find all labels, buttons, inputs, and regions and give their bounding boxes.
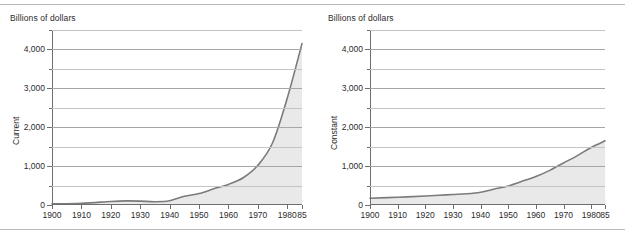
- area-fill: [370, 141, 605, 205]
- chart-panel-constant: Billions of dollars Constant 01,0002,000…: [318, 0, 625, 243]
- y-axis-tick-label: 2,000: [24, 122, 45, 132]
- y-tick-minor: [49, 108, 52, 109]
- series-area-constant: [370, 30, 605, 205]
- y-axis-tick-label: 4,000: [342, 44, 363, 54]
- gridline-minor: [370, 69, 605, 70]
- x-axis-tick-label: 1920: [416, 210, 435, 220]
- y-axis-tick-label: 1,000: [342, 161, 363, 171]
- gridline-major: [370, 49, 605, 50]
- x-axis-tick-label: 1900: [361, 210, 380, 220]
- gridline-minor: [52, 186, 302, 187]
- gridline-minor: [52, 69, 302, 70]
- y-axis-title-constant: Constant: [329, 116, 339, 150]
- gridline-major: [370, 166, 605, 167]
- y-tick-minor: [367, 30, 370, 31]
- gridline-major: [52, 49, 302, 50]
- y-axis-tick-label: 3,000: [342, 83, 363, 93]
- gridline-minor: [52, 108, 302, 109]
- x-axis-tick-label: 85: [297, 210, 306, 220]
- x-axis-tick-label: 1910: [72, 210, 91, 220]
- x-tick: [199, 205, 200, 209]
- y-axis-tick-label: 1,000: [24, 161, 45, 171]
- x-tick: [564, 205, 565, 209]
- y-tick-minor: [367, 69, 370, 70]
- y-tick-minor: [367, 108, 370, 109]
- unit-label-current: Billions of dollars: [10, 13, 76, 23]
- x-tick: [228, 205, 229, 209]
- chart-panel-current: Billions of dollars Current 01,0002,0003…: [0, 0, 318, 243]
- gridline-minor: [52, 147, 302, 148]
- x-axis-tick-label: 1900: [43, 210, 62, 220]
- y-tick-major: [47, 127, 52, 128]
- gridline-major: [370, 88, 605, 89]
- y-axis-tick-label: 3,000: [24, 83, 45, 93]
- x-tick: [81, 205, 82, 209]
- x-tick: [370, 205, 371, 209]
- x-tick: [398, 205, 399, 209]
- x-axis-line-current: [52, 204, 302, 205]
- x-axis-tick-label: 1920: [101, 210, 120, 220]
- x-tick: [536, 205, 537, 209]
- y-tick-major: [47, 49, 52, 50]
- x-axis-tick-label: 1980: [582, 210, 601, 220]
- y-tick-minor: [49, 186, 52, 187]
- x-tick: [258, 205, 259, 209]
- x-axis-line-constant: [370, 204, 605, 205]
- gridline-minor: [370, 186, 605, 187]
- y-tick-minor: [49, 30, 52, 31]
- gridline-major: [52, 127, 302, 128]
- x-axis-tick-label: 1960: [219, 210, 238, 220]
- x-tick: [302, 205, 303, 209]
- y-tick-minor: [49, 69, 52, 70]
- y-axis-tick-label: 4,000: [24, 44, 45, 54]
- y-tick-minor: [367, 186, 370, 187]
- gridline-minor: [52, 30, 302, 31]
- gridline-minor: [370, 108, 605, 109]
- x-axis-tick-label: 85: [600, 210, 609, 220]
- plot-area-current: 01,0002,0003,0004,0001900191019201930194…: [52, 30, 302, 205]
- x-axis-tick-label: 1940: [160, 210, 179, 220]
- unit-label-constant: Billions of dollars: [328, 13, 394, 23]
- x-axis-tick-label: 1970: [554, 210, 573, 220]
- y-tick-major: [47, 166, 52, 167]
- y-tick-major: [47, 88, 52, 89]
- x-tick: [170, 205, 171, 209]
- x-tick: [287, 205, 288, 209]
- y-axis-line-current: [52, 30, 53, 205]
- gridline-major: [370, 127, 605, 128]
- series-area-current: [52, 30, 302, 205]
- y-tick-major: [365, 127, 370, 128]
- y-tick-major: [365, 166, 370, 167]
- x-tick: [591, 205, 592, 209]
- gridline-major: [52, 166, 302, 167]
- x-axis-tick-label: 1960: [526, 210, 545, 220]
- x-tick: [605, 205, 606, 209]
- y-tick-minor: [49, 147, 52, 148]
- y-axis-tick-label: 2,000: [342, 122, 363, 132]
- x-axis-tick-label: 1970: [248, 210, 267, 220]
- y-axis-title-current: Current: [11, 117, 21, 145]
- x-tick: [425, 205, 426, 209]
- x-axis-tick-label: 1910: [388, 210, 407, 220]
- x-tick: [140, 205, 141, 209]
- x-axis-tick-label: 1950: [190, 210, 209, 220]
- x-tick: [508, 205, 509, 209]
- gridline-minor: [370, 30, 605, 31]
- x-tick: [52, 205, 53, 209]
- y-axis-tick-label: 0: [358, 200, 363, 210]
- y-axis-line-constant: [370, 30, 371, 205]
- x-tick: [111, 205, 112, 209]
- x-axis-tick-label: 1940: [471, 210, 490, 220]
- gridline-minor: [370, 147, 605, 148]
- x-axis-tick-label: 1930: [443, 210, 462, 220]
- y-tick-major: [365, 49, 370, 50]
- x-tick: [481, 205, 482, 209]
- x-axis-tick-label: 1980: [278, 210, 297, 220]
- area-fill: [52, 44, 302, 205]
- y-tick-major: [365, 88, 370, 89]
- x-axis-tick-label: 1950: [499, 210, 518, 220]
- x-axis-tick-label: 1930: [131, 210, 150, 220]
- gridline-major: [52, 88, 302, 89]
- plot-area-constant: 01,0002,0003,0004,0001900191019201930194…: [370, 30, 605, 205]
- y-axis-tick-label: 0: [40, 200, 45, 210]
